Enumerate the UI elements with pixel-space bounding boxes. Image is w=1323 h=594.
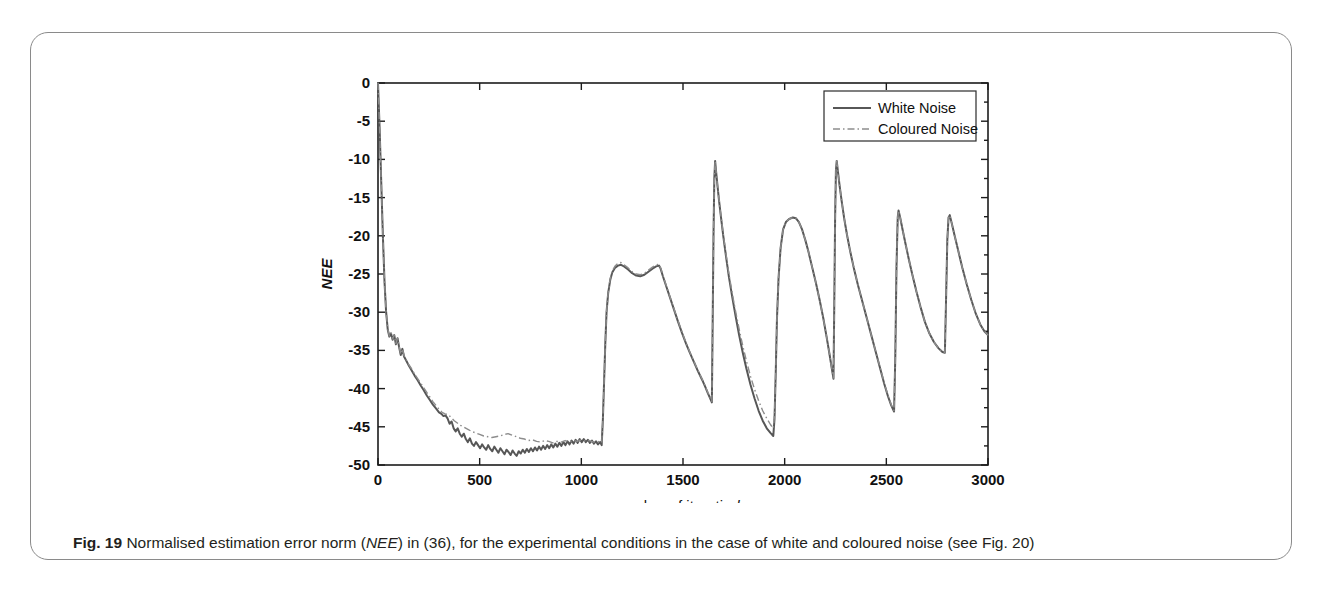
chart-legend[interactable]: White NoiseColoured Noise bbox=[824, 91, 978, 141]
nee-line-chart: White NoiseColoured Noise 05001000150020… bbox=[316, 53, 1016, 503]
y-tick-label: -40 bbox=[348, 380, 370, 397]
plot-area: White NoiseColoured Noise 05001000150020… bbox=[316, 53, 1016, 503]
x-tick-label: 2000 bbox=[768, 471, 801, 488]
caption-before: Normalised estimation error norm ( bbox=[126, 534, 365, 551]
y-tick-label: -5 bbox=[357, 112, 370, 129]
chart-figure: White NoiseColoured Noise 05001000150020… bbox=[31, 33, 1293, 503]
y-tick-label: -25 bbox=[348, 265, 370, 282]
y-tick-label: 0 bbox=[362, 74, 370, 91]
caption-nee-italic: NEE bbox=[366, 534, 398, 551]
x-tick-label: 500 bbox=[467, 471, 492, 488]
x-tick-label: 0 bbox=[374, 471, 382, 488]
y-tick-label: -10 bbox=[348, 150, 370, 167]
x-tick-label: 1500 bbox=[666, 471, 699, 488]
caption-after: ) in (36), for the experimental conditio… bbox=[398, 534, 1035, 551]
legend-label-2[interactable]: Coloured Noise bbox=[878, 121, 978, 137]
y-axis-title: NEE bbox=[318, 258, 335, 290]
x-tick-label: 3000 bbox=[971, 471, 1004, 488]
x-axis-title: number of iterations, bbox=[615, 497, 752, 503]
x-tick-label: 1000 bbox=[565, 471, 598, 488]
y-tick-label: -15 bbox=[348, 189, 370, 206]
x-tick-label: 2500 bbox=[870, 471, 903, 488]
y-tick-label: -35 bbox=[348, 341, 370, 358]
figure-card: White NoiseColoured Noise 05001000150020… bbox=[30, 32, 1292, 560]
y-tick-label: -30 bbox=[348, 303, 370, 320]
legend-label-1[interactable]: White Noise bbox=[878, 100, 956, 116]
y-tick-label: -20 bbox=[348, 227, 370, 244]
y-tick-label: -45 bbox=[348, 418, 370, 435]
y-tick-label: -50 bbox=[348, 456, 370, 473]
figure-caption: Fig. 19 Normalised estimation error norm… bbox=[73, 533, 1273, 554]
figure-label: Fig. 19 bbox=[73, 534, 122, 551]
